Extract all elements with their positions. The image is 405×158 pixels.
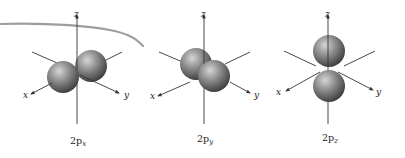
y-axis[interactable] [230, 82, 250, 93]
z-axis-label: z [324, 9, 330, 19]
x-axis[interactable] [158, 82, 190, 96]
x-axis-label: x [276, 87, 281, 97]
orbital-label-2py: 2py [197, 133, 214, 146]
x-axis-label: x [150, 91, 155, 101]
orbital-2pz: z x y 2pz [276, 9, 382, 145]
orbital-label-2pz: 2pz [322, 132, 338, 145]
y-axis-label: y [123, 90, 130, 100]
z-axis-label: z [200, 9, 206, 19]
y-axis-back [225, 52, 250, 64]
y-axis-back [344, 51, 375, 66]
pencil-stroke [0, 24, 143, 46]
lobe-back [75, 50, 107, 82]
x-axis-back [284, 51, 316, 66]
z-axis-label: z [73, 9, 79, 19]
lobe-front [47, 61, 79, 93]
orbital-2py: z x y 2py [150, 9, 260, 146]
y-axis-label: y [253, 90, 260, 100]
y-axis-label: y [375, 87, 382, 97]
p-orbitals-figure: z x y 2px z x y 2py z x y [0, 0, 405, 158]
x-axis-label: x [23, 90, 28, 100]
lobe-upper [313, 35, 345, 67]
orbital-label-2px: 2px [70, 135, 86, 148]
x-axis[interactable] [31, 83, 52, 94]
lobe-front [198, 60, 230, 92]
lobe-lower [313, 70, 345, 102]
